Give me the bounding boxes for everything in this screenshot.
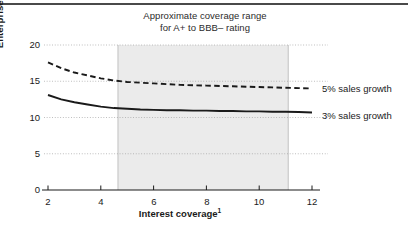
x-tick-label-2: 2 [37,196,59,207]
chart-title-line-2: for A+ to BBB– rating [90,22,320,34]
y-tick-label-5: 5 [14,148,40,159]
shaded-coverage-band [118,45,288,190]
plot-area [48,45,312,190]
x-axis-title: Interest coverage1 [48,207,312,219]
top-divider-rule [0,3,408,5]
legend-item-5-percent: 5% sales growth [322,83,392,94]
y-tick-label-0: 0 [14,184,40,195]
y-tick-label-15: 15 [14,75,40,86]
x-axis-footnote-marker: 1 [218,207,222,214]
x-tick-label-12: 12 [301,196,323,207]
legend-item-3-percent: 3% sales growth [322,110,392,121]
chart-figure: Approximate coverage range for A+ to BBB… [0,0,408,238]
y-axis-title: Enterprise value/EBITA [0,0,5,60]
y-tick-label-10: 10 [14,112,40,123]
x-tick-label-10: 10 [248,196,270,207]
x-axis-title-text: Interest coverage [139,208,218,219]
plot-svg [48,45,312,190]
chart-title: Approximate coverage range for A+ to BBB… [90,10,320,33]
x-tick-label-4: 4 [90,196,112,207]
chart-title-line-1: Approximate coverage range [90,10,320,22]
x-tick-label-8: 8 [196,196,218,207]
x-tick-label-6: 6 [143,196,165,207]
y-tick-label-20: 20 [14,39,40,50]
